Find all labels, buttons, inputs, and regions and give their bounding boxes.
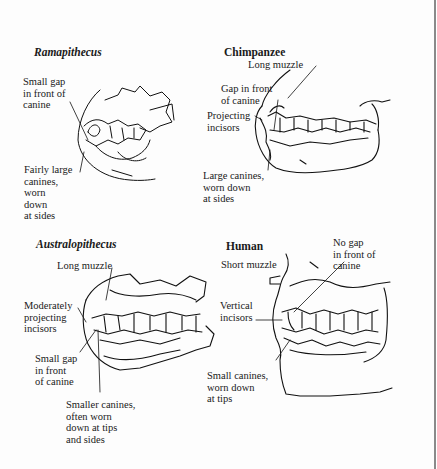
human-muzzle-label: Short muzzle bbox=[221, 259, 277, 271]
australopithecus-gap-label: Small gap in front of canine bbox=[35, 353, 77, 388]
australopithecus-incisors-label: Moderately projecting incisors bbox=[24, 300, 72, 335]
chimpanzee-incisors-label: Projecting incisors bbox=[207, 110, 250, 133]
ramapithecus-gap-label: Small gap in front of canine bbox=[23, 76, 66, 111]
human-incisors-label: Vertical incisors bbox=[220, 300, 253, 323]
chimpanzee-title: Chimpanzee bbox=[224, 46, 285, 58]
australopithecus-jaw-drawing bbox=[83, 274, 214, 370]
human-gap-label: No gap in front of canine bbox=[333, 237, 376, 272]
human-title: Human bbox=[226, 240, 263, 252]
ramapithecus-jaw-drawing bbox=[78, 86, 174, 180]
australopithecus-muzzle-label: Long muzzle bbox=[57, 260, 112, 272]
ramapithecus-canines-label: Fairly large canines, worn down at sides bbox=[24, 164, 73, 222]
chimpanzee-gap-label: Gap in front of canine bbox=[221, 83, 272, 106]
ramapithecus-title: Ramapithecus bbox=[34, 46, 102, 58]
chimpanzee-canines-label: Large canines, worn down at sides bbox=[203, 170, 264, 205]
australopithecus-canines-label: Smaller canines, often worn down at tips… bbox=[66, 399, 135, 445]
human-canines-label: Small canines, worn down at tips bbox=[207, 370, 268, 405]
australopithecus-title: Australopithecus bbox=[36, 238, 117, 250]
chimpanzee-muzzle-label: Long muzzle bbox=[248, 59, 303, 71]
